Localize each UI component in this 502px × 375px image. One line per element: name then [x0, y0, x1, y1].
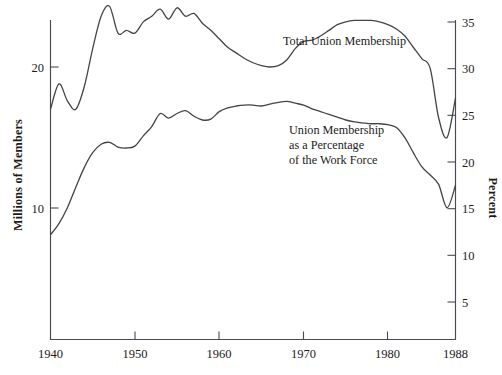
left-tick-label-20: 20	[32, 61, 45, 75]
right-tick-label-10: 10	[462, 249, 475, 263]
x-tick-label-1950: 1950	[123, 347, 148, 361]
annotation-total-union-membership-line-1: Total Union Membership	[283, 34, 406, 48]
x-tick-label-1988: 1988	[443, 347, 468, 361]
right-tick-label-35: 35	[462, 16, 475, 30]
right-tick-label-5: 5	[462, 296, 468, 310]
x-axis-ticks: 1940 1950 1960 1970 1980 1988	[38, 332, 468, 362]
annotation-union-membership-percentage-line-2: as a Percentage	[289, 138, 364, 152]
right-tick-label-25: 25	[462, 109, 475, 123]
x-tick-label-1970: 1970	[291, 347, 316, 361]
annotation-total-union-membership: Total Union Membership	[283, 34, 406, 48]
x-tick-label-1940: 1940	[38, 347, 63, 361]
right-axis-ticks: 35 30 25 20 15 10 5	[448, 16, 475, 310]
series-line-union-membership-percentage	[51, 101, 456, 234]
x-tick-label-1960: 1960	[207, 347, 232, 361]
left-axis-ticks: 20 10	[32, 61, 59, 216]
annotation-union-membership-percentage-line-3: of the Work Force	[289, 153, 377, 167]
union-membership-chart-figure: 20 10 35 30 25 20 15 10 5 1940 1950	[0, 0, 502, 375]
y2-axis-title: Percent	[486, 177, 500, 218]
right-tick-label-20: 20	[462, 156, 475, 170]
right-tick-label-15: 15	[462, 202, 475, 216]
left-tick-label-10: 10	[32, 202, 45, 216]
annotation-union-membership-percentage: Union Membership as a Percentage of the …	[289, 123, 384, 167]
axes-frame	[51, 21, 456, 340]
axis-frame-path	[51, 21, 456, 340]
y-axis-title: Millions of Members	[11, 119, 25, 231]
chart-plot-area: 20 10 35 30 25 20 15 10 5 1940 1950	[0, 0, 502, 375]
right-tick-label-30: 30	[462, 62, 475, 76]
annotation-union-membership-percentage-line-1: Union Membership	[289, 123, 384, 137]
series-line-total-union-membership	[51, 6, 456, 138]
x-tick-label-1980: 1980	[375, 347, 400, 361]
